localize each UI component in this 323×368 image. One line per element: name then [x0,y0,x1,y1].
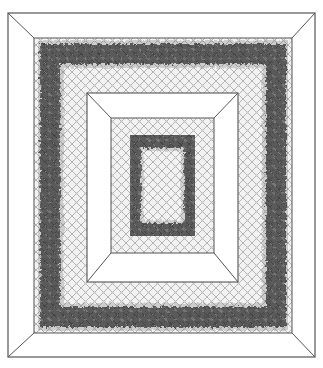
quilt-drawing [0,0,323,368]
inner-diamond-panel [111,118,214,253]
quilt-illustration [0,0,323,368]
